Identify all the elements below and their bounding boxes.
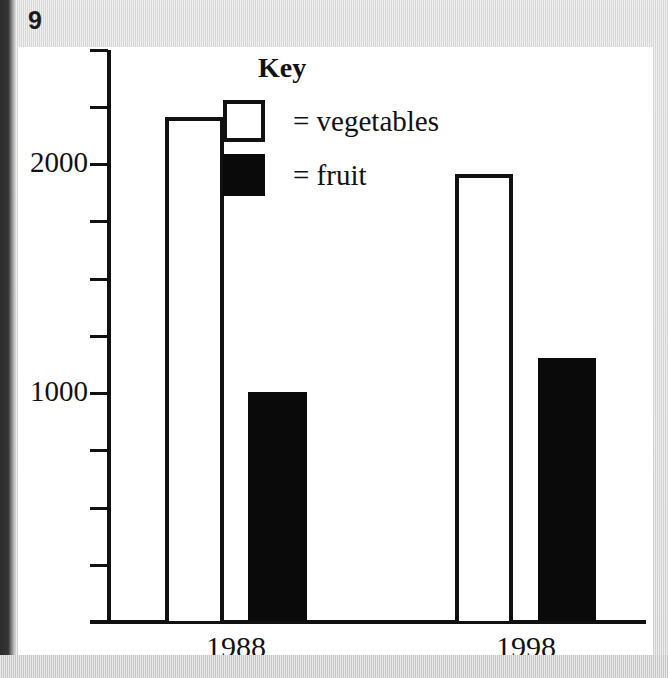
page-bottom-strip <box>0 655 668 678</box>
y-tick-250 <box>90 564 108 567</box>
bar-vegetables-1988 <box>165 117 224 621</box>
legend-swatch-fruit-icon <box>223 154 265 196</box>
y-axis-label-1000: 1000 <box>8 377 88 406</box>
page-container: 9 2000 1000 1 <box>0 0 668 678</box>
legend-label-vegetables: = vegetables <box>293 105 439 138</box>
y-axis-label-2000: 2000 <box>8 148 88 177</box>
bar-chart: 2000 1000 1988 1998 Key = vegetables <box>18 47 653 655</box>
legend-label-fruit: = fruit <box>293 159 367 192</box>
bar-vegetables-1998 <box>455 174 513 621</box>
y-tick-1250 <box>90 335 108 338</box>
y-tick-1750 <box>90 220 108 223</box>
y-tick-2000 <box>90 163 108 166</box>
legend-item-vegetables: = vegetables <box>223 94 553 148</box>
bar-fruit-1998 <box>538 358 596 621</box>
page-number: 9 <box>28 6 42 35</box>
page-gutter <box>0 0 15 678</box>
y-tick-1000 <box>90 392 108 395</box>
y-tick-500 <box>90 507 108 510</box>
chart-sheet: 2000 1000 1988 1998 Key = vegetables <box>18 47 653 655</box>
legend-item-fruit: = fruit <box>223 148 553 202</box>
y-tick-1500 <box>90 278 108 281</box>
y-tick-2500 <box>90 49 108 52</box>
legend-title: Key <box>258 52 553 84</box>
y-tick-2250 <box>90 106 108 109</box>
legend-swatch-vegetables-icon <box>223 100 265 142</box>
y-tick-750 <box>90 449 108 452</box>
chart-legend: Key = vegetables = fruit <box>223 52 553 202</box>
bar-fruit-1988 <box>248 392 307 621</box>
